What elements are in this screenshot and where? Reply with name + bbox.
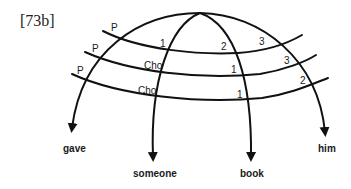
band1-label-p: P [111,22,118,33]
outer-arc-gave [72,13,200,128]
band3-label-2: 2 [300,75,306,86]
band3-label-cho: Cho [138,85,157,96]
word-gave: gave [63,143,86,154]
example-number: [73b] [20,12,55,30]
diagram-canvas: [73b] P 1 2 3 P Cho 1 3 P Cho 1 2 [0,0,351,189]
inner-arc-someone [153,13,200,157]
band2-label-p: P [92,43,99,54]
band3-label-1: 1 [237,89,243,100]
band-1 [103,31,302,53]
outer-arc-him [200,13,325,132]
band2-label-3: 3 [284,55,290,66]
band2-label-cho: Cho [144,60,163,71]
band1-label-2: 2 [221,41,227,52]
band1-label-3: 3 [259,36,265,47]
word-him: him [318,143,336,154]
word-someone: someone [133,168,177,179]
word-book: book [240,168,264,179]
band2-label-1: 1 [231,64,237,75]
band3-label-p: P [77,65,84,76]
inner-arc-book [200,13,251,157]
band-3 [72,74,328,100]
band1-label-1: 1 [160,38,166,49]
band-2 [85,52,316,76]
